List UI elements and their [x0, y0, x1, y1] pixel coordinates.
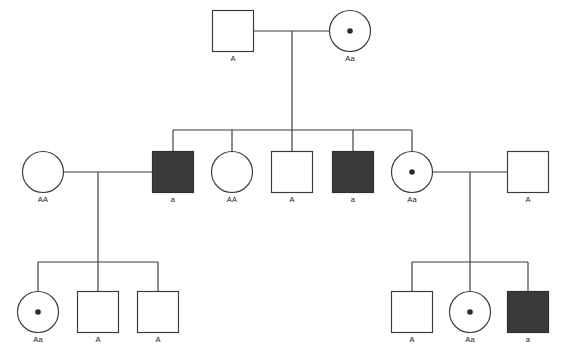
individual-II-4-square[interactable] — [272, 152, 313, 193]
genotype-label-III-1: Aa — [33, 335, 43, 344]
genotype-label-II-5: a — [351, 195, 356, 204]
individual-III-6-square[interactable] — [508, 292, 549, 333]
carrier-dot-icon-I-2 — [347, 28, 353, 34]
genotype-label-III-5: Aa — [465, 335, 475, 344]
genotype-label-III-2: A — [95, 335, 100, 344]
individual-II-1-circle[interactable] — [23, 152, 64, 193]
individual-II-5-square[interactable] — [333, 152, 374, 193]
carrier-dot-icon-III-5 — [467, 309, 473, 315]
pedigree-chart: AAaAAaAAAaAaAAaAAAAaa — [0, 0, 564, 353]
genotype-label-II-3: AA — [227, 195, 237, 204]
individual-II-7-square[interactable] — [508, 152, 549, 193]
carrier-dot-icon-II-6 — [409, 169, 415, 175]
individual-III-3-square[interactable] — [138, 292, 179, 333]
genotype-label-III-6: a — [526, 335, 531, 344]
genotype-label-I-2: Aa — [345, 54, 355, 63]
genotype-label-II-1: AA — [38, 195, 48, 204]
carrier-dot-icon-III-1 — [35, 309, 41, 315]
individual-II-3-circle[interactable] — [212, 152, 253, 193]
genotype-label-I-1: A — [230, 54, 235, 63]
individual-II-2-square[interactable] — [153, 152, 194, 193]
genotype-label-III-4: A — [409, 335, 414, 344]
genotype-label-II-4: A — [289, 195, 294, 204]
individual-III-2-square[interactable] — [78, 292, 119, 333]
genotype-label-II-7: A — [525, 195, 530, 204]
genotype-label-II-6: Aa — [407, 195, 417, 204]
genotype-label-II-2: a — [171, 195, 176, 204]
individual-I-1-square[interactable] — [213, 11, 254, 52]
pedigree-diagram: AAaAAaAAAaAaAAaAAAAaa — [0, 0, 564, 353]
genotype-label-III-3: A — [155, 335, 160, 344]
individual-III-4-square[interactable] — [392, 292, 433, 333]
